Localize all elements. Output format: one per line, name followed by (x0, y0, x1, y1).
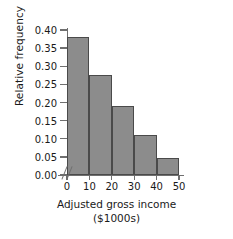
x-axis-title: Adjusted gross income ($1000s) (0, 197, 233, 225)
x-axis-tick (156, 175, 157, 180)
bar (112, 106, 134, 175)
y-axis-tick (60, 138, 67, 139)
x-axis-tick (178, 175, 179, 180)
x-axis-line (58, 175, 184, 176)
y-axis-tick (60, 29, 67, 30)
y-axis-tick-label: 0.30 (17, 61, 57, 72)
x-axis-break-icon (60, 166, 76, 180)
y-axis-tick-label: 0.25 (17, 79, 57, 90)
y-axis-tick-label: 0.40 (17, 25, 57, 36)
y-axis-tick-label: 0.20 (17, 97, 57, 108)
x-axis-tick-label: 50 (166, 181, 192, 192)
x-axis-tick (111, 175, 112, 180)
y-axis-tick-label: 0.35 (17, 43, 57, 54)
y-axis-tick (60, 47, 67, 48)
y-axis-tick (60, 102, 67, 103)
y-axis-tick (60, 84, 67, 85)
x-axis-tick (134, 175, 135, 180)
y-axis-tick (60, 156, 67, 157)
bar (89, 75, 111, 175)
y-axis-tick-label: 0.10 (17, 133, 57, 144)
y-axis-tick (60, 120, 67, 121)
histogram-figure: Relative frequency 0.000.050.100.150.200… (0, 0, 233, 239)
x-axis-title-line1: Adjusted gross income (57, 198, 176, 210)
y-axis-tick (60, 66, 67, 67)
x-axis-title-line2: ($1000s) (0, 211, 233, 225)
y-axis-tick-label: 0.15 (17, 115, 57, 126)
bar (134, 135, 156, 175)
y-axis-tick-label: 0.05 (17, 151, 57, 162)
bar (67, 37, 89, 175)
x-axis-tick (89, 175, 90, 180)
y-axis-tick-label: 0.00 (17, 170, 57, 181)
bar (157, 158, 179, 175)
